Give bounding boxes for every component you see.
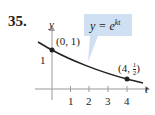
y-tick-label: 1 <box>40 55 46 66</box>
x-tick-label: 4 <box>124 96 130 107</box>
x-tick-label: 1 <box>68 96 74 107</box>
x-axis-label: t <box>145 84 148 95</box>
graph <box>0 0 155 115</box>
callout-pointer <box>88 36 98 62</box>
point-label-0-1: (0, 1) <box>56 36 80 47</box>
x-tick-label: 2 <box>86 96 92 107</box>
point-label-4-half: (4, 12) <box>118 62 140 77</box>
point-4-half <box>125 77 130 82</box>
x-tick-label: 3 <box>105 96 111 107</box>
y-axis-label: y <box>49 19 54 30</box>
point-0-1 <box>50 48 55 53</box>
